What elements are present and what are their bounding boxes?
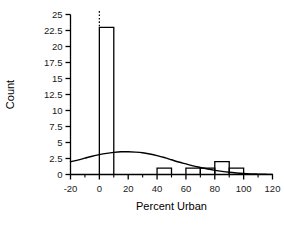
y-tick-label: 10 (52, 105, 63, 116)
y-tick-label: 22.5 (44, 25, 63, 36)
y-tick-label: 20 (52, 41, 63, 52)
y-tick-label: 0 (57, 169, 62, 180)
y-tick-label: 2.5 (49, 153, 62, 164)
histogram-bar (157, 168, 171, 174)
x-tick-label: 120 (265, 183, 281, 194)
x-tick-label: 60 (181, 183, 192, 194)
x-tick-label: 40 (152, 183, 163, 194)
x-axis-ticks (71, 175, 273, 180)
x-axis-tick-labels: -20020406080100120 (64, 183, 281, 194)
y-axis-title: Count (4, 80, 16, 109)
histogram-chart: 02.557.51012.51517.52022.525 -2002040608… (0, 0, 284, 231)
x-axis-title: Percent Urban (136, 200, 207, 212)
y-tick-label: 25 (52, 9, 63, 20)
x-tick-label: 0 (97, 183, 102, 194)
x-tick-label: 100 (236, 183, 252, 194)
y-tick-label: 12.5 (44, 89, 63, 100)
y-axis-ticks (66, 15, 71, 175)
histogram-bar (186, 168, 200, 174)
y-tick-label: 17.5 (44, 57, 63, 68)
x-tick-label: -20 (64, 183, 78, 194)
x-tick-label: 20 (123, 183, 134, 194)
y-tick-label: 15 (52, 73, 63, 84)
y-tick-label: 5 (57, 137, 62, 148)
x-tick-label: 80 (209, 183, 220, 194)
chart-canvas: 02.557.51012.51517.52022.525 -2002040608… (0, 0, 284, 231)
y-axis-tick-labels: 02.557.51012.51517.52022.525 (44, 9, 63, 180)
y-tick-label: 7.5 (49, 121, 62, 132)
